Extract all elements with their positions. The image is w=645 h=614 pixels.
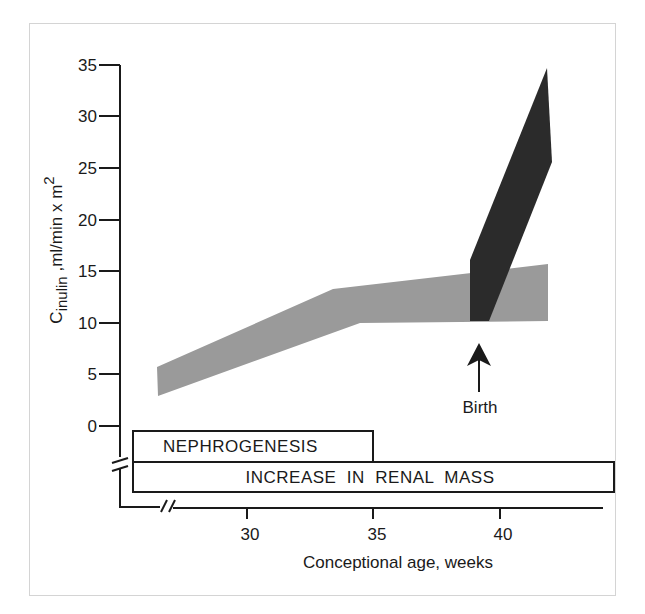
x-tick-40: 40 <box>494 525 513 544</box>
x-axis-title: Conceptional age, weeks <box>303 553 493 572</box>
svg-text:Cinulin ,ml/min x m2: Cinulin ,ml/min x m2 <box>40 176 70 323</box>
y-tick-5: 5 <box>88 365 97 384</box>
renal-mass-label: INCREASE IN RENAL MASS <box>246 468 495 487</box>
nephrogenesis-label: NEPHROGENESIS <box>163 437 318 456</box>
y-tick-30: 30 <box>78 107 97 126</box>
y-tick-10: 10 <box>78 314 97 333</box>
y-tick-15: 15 <box>78 262 97 281</box>
chart-canvas: 35 30 25 20 15 10 5 0 Cinulin ,ml/min x … <box>0 0 645 614</box>
y-label-rest: ,ml/min x m <box>47 185 66 277</box>
y-tick-0: 0 <box>88 417 97 436</box>
x-tick-35: 35 <box>368 525 387 544</box>
birth-label: Birth <box>463 398 498 417</box>
y-tick-20: 20 <box>78 211 97 230</box>
y-label-main: C <box>47 311 66 323</box>
x-tick-30: 30 <box>241 525 260 544</box>
y-label-sub: inulin <box>53 276 70 311</box>
y-axis-title: Cinulin ,ml/min x m2 <box>40 176 70 323</box>
y-tick-35: 35 <box>78 56 97 75</box>
y-axis <box>99 65 128 507</box>
birth-arrow-icon <box>467 343 491 392</box>
y-label-sup: 2 <box>40 176 57 184</box>
y-tick-25: 25 <box>78 159 97 178</box>
x-axis <box>119 500 603 519</box>
